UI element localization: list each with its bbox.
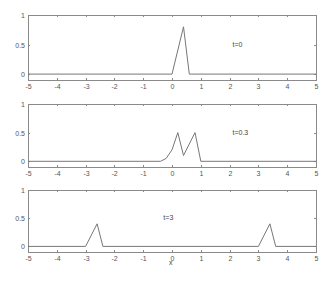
x-tick-label: 4	[286, 170, 290, 177]
x-tick-label: 5	[315, 170, 319, 177]
data-line	[28, 224, 316, 247]
y-tick-label: 1	[21, 12, 25, 19]
x-tick-label: 2	[229, 170, 233, 177]
x-tick-label: 0	[171, 83, 175, 90]
x-axis-label: x	[169, 259, 173, 266]
x-tick-label: -5	[25, 170, 31, 177]
x-tick-label: -5	[25, 255, 31, 262]
x-tick-label: 1	[200, 170, 204, 177]
x-tick-label: -2	[111, 170, 117, 177]
x-tick-label: -4	[54, 83, 60, 90]
x-tick-label: 1	[200, 255, 204, 262]
subplot-3: -5-4-3-2-101234500.51t=3	[15, 187, 318, 262]
x-tick-label: 2	[229, 255, 233, 262]
y-tick-label: 0	[21, 158, 25, 165]
subplot-2: -5-4-3-2-101234500.51t=0.3	[15, 101, 318, 177]
x-tick-label: -3	[83, 170, 89, 177]
figure: -5-4-3-2-101234500.51t=0-5-4-3-2-1012345…	[0, 0, 333, 282]
time-annotation: t=0	[232, 41, 242, 48]
x-tick-label: -4	[54, 255, 60, 262]
axes-box	[29, 191, 317, 253]
y-tick-label: 1	[21, 187, 25, 194]
axes-box	[29, 105, 317, 168]
x-tick-label: -3	[83, 83, 89, 90]
x-tick-label: 5	[315, 255, 319, 262]
y-tick-label: 1	[21, 101, 25, 108]
x-tick-label: -1	[140, 255, 146, 262]
y-tick-label: 0.5	[15, 215, 25, 222]
x-tick-label: 2	[229, 83, 233, 90]
time-annotation: t=3	[163, 214, 173, 221]
x-tick-label: 4	[286, 255, 290, 262]
y-tick-label: 0	[21, 243, 25, 250]
subplot-1: -5-4-3-2-101234500.51t=0	[15, 12, 318, 90]
y-tick-label: 0	[21, 71, 25, 78]
x-tick-label: -2	[111, 255, 117, 262]
x-tick-label: -3	[83, 255, 89, 262]
data-line	[28, 27, 316, 74]
x-tick-label: 3	[257, 255, 261, 262]
x-tick-label: 4	[286, 83, 290, 90]
x-tick-label: -1	[140, 83, 146, 90]
x-tick-label: -4	[54, 170, 60, 177]
x-tick-label: 1	[200, 83, 204, 90]
time-annotation: t=0.3	[232, 129, 248, 136]
x-tick-label: -2	[111, 83, 117, 90]
data-line	[28, 133, 316, 162]
x-tick-label: 3	[257, 83, 261, 90]
x-tick-label: -5	[25, 83, 31, 90]
x-tick-label: 0	[171, 170, 175, 177]
y-tick-label: 0.5	[15, 42, 25, 49]
x-tick-label: 5	[315, 83, 319, 90]
x-tick-label: -1	[140, 170, 146, 177]
x-tick-label: 3	[257, 170, 261, 177]
y-tick-label: 0.5	[15, 130, 25, 137]
